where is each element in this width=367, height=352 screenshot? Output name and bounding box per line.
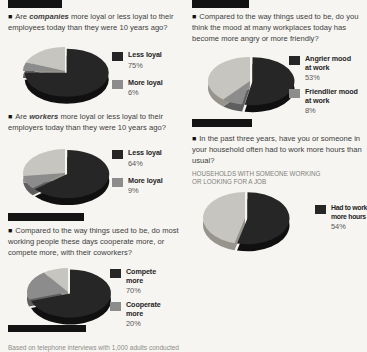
- source-footnote: Based on telephone interviews with 1,000…: [8, 344, 367, 352]
- bullet-square-icon: ■: [192, 135, 196, 142]
- chart-subheading: HOUSEHOLDS WITH SOMEONE WORKING OR LOOKI…: [192, 170, 324, 186]
- legend-value: 54%: [331, 222, 367, 231]
- legend-label: Less loyal: [128, 149, 162, 158]
- legend-value: 9%: [128, 186, 163, 195]
- legend-swatch: [112, 80, 123, 89]
- legend-swatch: [289, 89, 300, 98]
- legend-value: 70%: [126, 286, 156, 295]
- question-text: Are: [15, 12, 29, 21]
- pie-chart-companies-loyalty: [18, 44, 118, 108]
- divider-bar: [192, 119, 252, 127]
- legend-label: More loyal: [128, 79, 163, 88]
- legend-value: 53%: [305, 73, 351, 82]
- bullet-square-icon: ■: [8, 13, 12, 20]
- legend-item: More loyal9%: [112, 177, 163, 196]
- question-text: In the past three years, have you or som…: [192, 134, 362, 165]
- legend-value: 75%: [128, 61, 162, 70]
- legend-swatch: [110, 302, 121, 311]
- legend-label: Had to work: [331, 204, 367, 213]
- legend-item: Friendlier moodat work8%: [289, 88, 358, 115]
- pie-chart-workplace-mood: [205, 56, 301, 114]
- pie-chart-compete-cooperate: [22, 267, 122, 329]
- question-emphasis: workers: [29, 112, 58, 121]
- legend-item: Had to workmore hours54%: [315, 204, 367, 231]
- legend-item: Less loyal64%: [112, 149, 163, 168]
- legend-swatch: [112, 178, 123, 187]
- legend-value: 20%: [126, 319, 161, 328]
- bullet-square-icon: ■: [192, 13, 196, 20]
- legend-value: 8%: [305, 106, 358, 115]
- divider-bar: [8, 213, 84, 221]
- question-companies-loyalty: ■Are companies more loyal or less loyal …: [8, 11, 182, 33]
- legend-item: Angrier moodat work53%: [289, 55, 358, 82]
- legend-label: More loyal: [128, 177, 163, 186]
- question-text: Are: [15, 112, 29, 121]
- pie-chart-work-more-hours: [200, 190, 294, 256]
- legend-swatch: [289, 56, 300, 65]
- legend-swatch: [110, 269, 121, 278]
- legend-compete-cooperate: Competemore70% Cooperatemore20%: [110, 268, 161, 337]
- bullet-square-icon: ■: [8, 227, 12, 234]
- legend-value: 6%: [128, 88, 163, 97]
- question-workers-loyalty: ■Are workers more loyal or less loyal to…: [8, 111, 182, 133]
- legend-label: more: [126, 277, 156, 286]
- legend-item: Competemore70%: [110, 268, 161, 295]
- bullet-square-icon: ■: [8, 113, 12, 120]
- legend-workers-loyalty: Less loyal64% More loyal9%: [112, 149, 163, 204]
- pie-chart-workers-loyalty: [18, 146, 118, 208]
- legend-label: at work: [305, 97, 358, 106]
- legend-companies-loyalty: Less loyal75% More loyal6%: [112, 51, 163, 106]
- legend-item: Less loyal75%: [112, 51, 163, 70]
- question-text: Compared to the way things used to be, d…: [8, 226, 179, 257]
- legend-label: more: [126, 310, 161, 319]
- legend-swatch: [112, 150, 123, 159]
- question-compete-cooperate: ■Compared to the way things used to be, …: [8, 225, 182, 258]
- legend-label: Less loyal: [128, 51, 162, 60]
- legend-label: more hours: [331, 213, 367, 222]
- legend-swatch: [315, 205, 326, 214]
- question-text: Compared to the way things used to be, d…: [192, 12, 358, 43]
- legend-item: More loyal6%: [112, 79, 163, 98]
- legend-item: Cooperatemore20%: [110, 301, 161, 328]
- legend-label: at work: [305, 64, 351, 73]
- divider-bar: [8, 0, 62, 8]
- legend-work-more-hours: Had to workmore hours54%: [315, 204, 367, 240]
- divider-bar: [192, 0, 249, 8]
- divider-bar: [8, 325, 86, 332]
- question-work-more-hours: ■In the past three years, have you or so…: [192, 133, 366, 166]
- question-workplace-mood: ■Compared to the way things used to be, …: [192, 11, 366, 44]
- legend-value: 64%: [128, 159, 162, 168]
- question-emphasis: companies: [29, 12, 69, 21]
- legend-swatch: [112, 52, 123, 61]
- legend-workplace-mood: Angrier moodat work53% Friendlier moodat…: [289, 55, 358, 124]
